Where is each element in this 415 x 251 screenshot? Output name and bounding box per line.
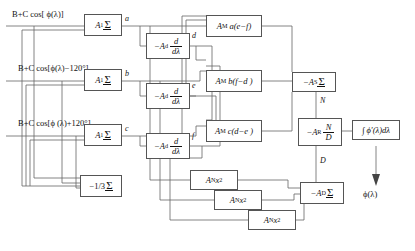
ratio-fraction: N D <box>323 123 333 141</box>
multiplier-block-b[interactable]: AMb(f−d ) <box>206 70 262 92</box>
deriv-e-gain-sub: d <box>165 93 168 99</box>
deriv-e-den: dλ <box>170 96 182 106</box>
sum-block-b[interactable]: A1Σ <box>84 69 122 91</box>
ratio-gain: −A <box>306 128 317 137</box>
ratio-num: N <box>324 123 334 132</box>
mult-b-gain-sub: M <box>221 78 227 84</box>
signal-label-a: a <box>125 14 129 23</box>
deriv-f-gain: −A <box>154 142 165 151</box>
multiplier-block-a[interactable]: AMa(e−f) <box>206 15 262 37</box>
deriv-f-num: d <box>172 137 180 146</box>
bias-sum-block[interactable]: −1/3Σ <box>80 175 122 197</box>
deriv-d-gain-sub: d <box>165 43 168 49</box>
derivative-block-d[interactable]: −Ad d dλ <box>146 33 190 59</box>
ratio-block[interactable]: −AR N D <box>298 118 342 146</box>
sum-block-c[interactable]: A1Σ <box>84 124 122 146</box>
deriv-d-operator: d dλ <box>170 37 182 55</box>
input-label-2: B+C cos[ϕ(λ)−120°] <box>18 64 88 73</box>
numerator-sum-block[interactable]: −ASΣ <box>292 72 336 92</box>
bias-gain: −1/3 <box>89 182 105 191</box>
signal-label-d: d <box>192 31 196 40</box>
signal-label-D: D <box>320 156 326 165</box>
denominator-sum-block[interactable]: −ADΣ <box>300 182 344 204</box>
deriv-e-num: d <box>172 87 180 96</box>
deriv-d-den: dλ <box>170 46 182 56</box>
deriv-f-den: dλ <box>170 146 182 156</box>
ratio-den: D <box>323 132 333 142</box>
sum-d-gain: −A <box>311 189 322 198</box>
block-diagram: B+C cos[ ϕ(λ)] B+C cos[ϕ(λ)−120°] B+C co… <box>0 0 415 251</box>
sum-d-symbol: Σ <box>326 188 333 198</box>
deriv-e-gain: −A <box>154 92 165 101</box>
sum-c-symbol: Σ <box>103 130 110 140</box>
input-label-3: B+C cos[ϕ (λ)+120°] <box>18 119 91 128</box>
square-block-3[interactable]: ANx2 <box>248 210 296 230</box>
sum-a-symbol: Σ <box>103 20 110 30</box>
mult-c-gain-sub: M <box>220 128 226 134</box>
sum-block-a[interactable]: A1Σ <box>84 14 122 36</box>
sum-n-symbol: Σ <box>317 77 324 87</box>
bias-symbol: Σ <box>105 181 112 191</box>
signal-label-e: e <box>192 81 196 90</box>
square-block-1[interactable]: ANx2 <box>190 170 238 190</box>
multiplier-block-c[interactable]: AMc(d−e ) <box>206 120 262 142</box>
output-label: ϕ(λ) <box>363 190 377 199</box>
mult-a-gain-sub: M <box>222 23 228 29</box>
sq-1-power: 2 <box>219 177 222 183</box>
derivative-block-e[interactable]: −Ad d dλ <box>146 83 190 109</box>
mult-c-expr: c(d−e ) <box>228 127 253 136</box>
signal-label-b: b <box>125 69 129 78</box>
sq-2-power: 2 <box>243 197 246 203</box>
derivative-block-f[interactable]: −Ad d dλ <box>146 133 190 159</box>
output-arrow <box>372 174 380 186</box>
ratio-gain-sub: R <box>317 129 321 135</box>
input-label-1: B+C cos[ ϕ(λ)] <box>12 10 64 19</box>
integrator-block[interactable]: ∫ ϕ′(λ)dλ <box>352 120 400 140</box>
signal-label-N: N <box>320 96 325 105</box>
deriv-e-operator: d dλ <box>170 87 182 105</box>
signal-label-c: c <box>125 124 129 133</box>
sum-b-symbol: Σ <box>103 75 110 85</box>
sq-3-power: 2 <box>277 217 280 223</box>
deriv-f-gain-sub: d <box>165 143 168 149</box>
integrator-expression: ∫ ϕ′(λ)dλ <box>362 126 390 135</box>
signal-label-f: f <box>192 131 194 140</box>
mult-b-expr: b(f−d ) <box>228 77 252 86</box>
deriv-d-gain: −A <box>154 42 165 51</box>
mult-a-expr: a(e−f) <box>229 22 251 31</box>
deriv-d-num: d <box>172 37 180 46</box>
sum-n-gain: −A <box>303 78 314 87</box>
square-block-2[interactable]: ANx2 <box>214 190 262 210</box>
deriv-f-operator: d dλ <box>170 137 182 155</box>
